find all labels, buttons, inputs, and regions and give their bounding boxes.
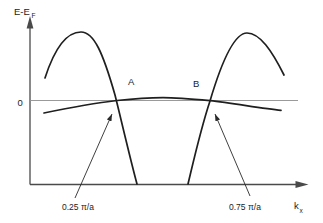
axes: [27, 16, 309, 188]
zero-tick-label: 0: [18, 97, 23, 108]
y-axis-label: E-E: [14, 6, 30, 17]
band-structure-diagram: E-E F 0 A B 0.25 π/a 0.75 π/a k x: [0, 0, 323, 223]
annotation-arrows: [75, 114, 250, 198]
diagram-canvas: E-E F 0 A B 0.25 π/a 0.75 π/a k x: [0, 0, 323, 223]
x-axis-arrowhead-icon: [296, 181, 309, 188]
k-value-label-a: 0.25 π/a: [62, 202, 94, 212]
crossing-point-a-label: A: [128, 76, 135, 87]
x-axis-label-subscript: x: [300, 207, 304, 214]
x-axis-label: k: [294, 200, 299, 211]
annotation-arrow-to-point-a: [75, 114, 112, 198]
annotation-arrow-to-point-b: [215, 114, 250, 196]
y-axis-label-subscript: F: [32, 12, 36, 19]
flat-band-curve: [44, 98, 281, 113]
band-curves: [44, 32, 284, 184]
k-value-label-b: 0.75 π/a: [229, 202, 261, 212]
crossing-point-b-label: B: [193, 78, 199, 89]
